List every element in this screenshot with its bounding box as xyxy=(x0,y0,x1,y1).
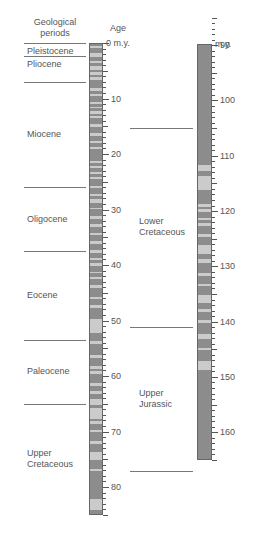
minor-tick xyxy=(103,187,106,188)
minor-tick xyxy=(212,206,215,207)
minor-tick xyxy=(103,409,106,410)
minor-tick xyxy=(103,132,106,133)
normal-polarity-band xyxy=(90,366,102,369)
minor-tick xyxy=(212,244,215,245)
minor-tick xyxy=(212,34,215,35)
period-label-line: Paleocene xyxy=(27,366,70,377)
minor-tick xyxy=(212,416,215,417)
minor-tick xyxy=(103,348,108,349)
major-tick xyxy=(212,211,218,212)
minor-tick xyxy=(212,112,215,113)
normal-polarity-band xyxy=(90,61,102,63)
minor-tick xyxy=(212,366,215,367)
tick-label-130: 130 xyxy=(220,261,235,271)
minor-tick xyxy=(103,115,106,116)
minor-tick xyxy=(103,182,108,183)
normal-polarity-band xyxy=(90,172,102,175)
minor-tick xyxy=(103,204,106,205)
period-divider xyxy=(24,404,86,405)
normal-polarity-band xyxy=(90,224,102,226)
period-label-line: Upper xyxy=(27,448,73,459)
minor-tick xyxy=(103,470,106,471)
normal-polarity-band xyxy=(198,273,211,276)
normal-polarity-band xyxy=(90,194,102,196)
normal-polarity-band xyxy=(90,341,102,344)
major-tick xyxy=(212,377,218,378)
major-tick xyxy=(103,99,109,100)
normal-polarity-band xyxy=(198,209,211,212)
polarity-bar xyxy=(197,44,212,460)
minor-tick xyxy=(103,493,106,494)
minor-tick xyxy=(212,316,215,317)
period-label-line: Eocene xyxy=(27,290,58,301)
minor-tick xyxy=(212,300,215,301)
period-label-line: Cretaceous xyxy=(27,459,73,470)
major-tick xyxy=(103,321,109,322)
minor-tick xyxy=(212,172,215,173)
minor-tick xyxy=(103,76,106,77)
period-divider xyxy=(24,340,86,341)
minor-tick xyxy=(103,476,106,477)
minor-tick xyxy=(212,333,215,334)
polarity-bar xyxy=(89,43,103,515)
minor-tick xyxy=(103,504,106,505)
minor-tick xyxy=(103,359,106,360)
normal-polarity-band xyxy=(90,421,102,423)
minor-tick xyxy=(103,459,108,460)
unit-label: 0 m.y. xyxy=(106,38,130,48)
minor-tick xyxy=(103,165,106,166)
normal-polarity-band xyxy=(90,208,102,210)
minor-tick xyxy=(212,29,215,30)
major-tick xyxy=(212,156,218,157)
major-tick xyxy=(103,487,109,488)
minor-tick xyxy=(212,288,215,289)
normal-polarity-band xyxy=(90,297,102,300)
periods-header-line2: periods xyxy=(24,28,86,39)
tick-label-20: 20 xyxy=(111,149,121,159)
minor-tick xyxy=(212,89,215,90)
major-tick xyxy=(212,322,218,323)
minor-tick xyxy=(212,167,215,168)
minor-tick xyxy=(212,18,217,19)
normal-polarity-band xyxy=(90,383,102,386)
minor-tick xyxy=(103,60,106,61)
minor-tick xyxy=(212,382,215,383)
normal-polarity-band xyxy=(90,441,102,444)
normal-polarity-band xyxy=(90,499,102,510)
minor-tick xyxy=(103,365,106,366)
minor-tick xyxy=(103,54,106,55)
minor-tick xyxy=(103,221,106,222)
tick-label-140: 140 xyxy=(220,317,235,327)
tick-label-60: 60 xyxy=(111,371,121,381)
minor-tick xyxy=(103,298,106,299)
minor-tick xyxy=(103,387,106,388)
period-divider xyxy=(24,82,86,83)
minor-tick xyxy=(103,326,106,327)
minor-tick xyxy=(103,271,106,272)
minor-tick xyxy=(212,272,215,273)
normal-polarity-band xyxy=(90,305,102,308)
period-label-paleocene: Paleocene xyxy=(27,366,70,377)
normal-polarity-band xyxy=(90,186,102,189)
minor-tick xyxy=(103,137,106,138)
minor-tick xyxy=(212,454,215,455)
period-divider xyxy=(24,251,86,252)
minor-tick xyxy=(212,95,215,96)
tick-label-100: 100 xyxy=(220,95,235,105)
normal-polarity-band xyxy=(90,277,102,279)
minor-tick xyxy=(103,293,108,294)
minor-tick xyxy=(212,410,215,411)
minor-tick xyxy=(103,121,106,122)
minor-tick xyxy=(103,198,106,199)
minor-tick xyxy=(212,23,215,24)
minor-tick xyxy=(103,126,108,127)
minor-tick xyxy=(103,515,108,516)
normal-polarity-band xyxy=(90,88,102,90)
period-label-lower-cretaceous: LowerCretaceous xyxy=(139,216,185,238)
period-divider xyxy=(130,128,193,129)
minor-tick xyxy=(103,171,106,172)
minor-tick xyxy=(212,255,215,256)
minor-tick xyxy=(212,338,215,339)
minor-tick xyxy=(212,371,215,372)
period-label-line: Miocene xyxy=(27,129,61,140)
